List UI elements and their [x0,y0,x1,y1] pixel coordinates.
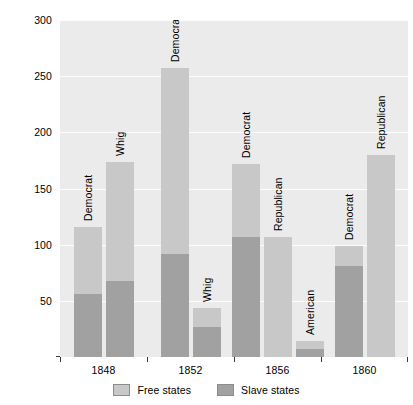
bar-label: Democrat [343,193,354,239]
bar-segment-free-states [193,308,221,327]
bar-1856-republican: Republican [264,237,292,357]
bar-label: Republican [375,95,386,149]
y-axis-tick-label: 300 [22,15,52,25]
bar-label: Democrat [240,111,251,157]
bar-label: Whig [201,277,212,301]
x-axis-tick-label: 1860 [335,364,395,376]
x-axis-tick-mark [234,357,235,362]
plot-area: DemocratWhigDemocratWhigDemocratRepublic… [60,20,408,357]
gridline [60,132,408,133]
x-axis-tick-mark [147,357,148,362]
x-axis-tick-label: 1856 [248,364,308,376]
bar-segment-slave-states [193,327,221,357]
y-axis-tick-label: 50 [22,296,52,306]
bar-segment-free-states [106,162,134,281]
gridline [60,20,408,21]
bar-segment-free-states [74,227,102,294]
gridline [60,76,408,77]
bar-segment-slave-states [232,237,260,357]
x-axis-tick-mark [407,357,408,362]
bar-label: Democrat [169,20,180,62]
bar-1852-democrat: Democrat [161,68,189,357]
bar-segment-slave-states [74,294,102,357]
legend-label-slave-states: Slave states [241,384,299,396]
bar-segment-free-states [161,68,189,253]
legend: Free states Slave states [0,381,413,399]
bar-segment-free-states [296,341,324,349]
bar-1856-american: American [296,341,324,357]
bar-segment-free-states [335,246,363,266]
bar-1852-whig: Whig [193,308,221,357]
legend-label-free-states: Free states [137,384,191,396]
bar-segment-free-states [232,164,260,237]
x-axis-tick-mark [321,357,322,362]
bar-segment-slave-states [161,254,189,357]
bar-segment-free-states [264,237,292,357]
bar-label: Whig [114,131,125,155]
bar-segment-slave-states [106,281,134,357]
legend-swatch-slave-states [217,384,234,396]
bar-chart: Party members in House of Representative… [0,0,413,405]
bar-segment-slave-states [296,349,324,357]
bar-segment-slave-states [335,266,363,357]
y-axis-tick-label: 100 [22,240,52,250]
bar-1848-democrat: Democrat [74,227,102,357]
legend-item-slave-states: Slave states [217,384,299,396]
bar-label: Republican [272,177,283,231]
y-axis-tick-label: 150 [22,184,52,194]
legend-swatch-free-states [113,384,130,396]
y-axis-title: Party members in House of Representative… [0,0,16,52]
bar-segment-free-states [367,155,395,357]
bar-1860-republican: Republican [367,155,395,357]
bar-1856-democrat: Democrat [232,164,260,357]
bar-label: Democrat [82,174,93,220]
x-axis-tick-label: 1848 [74,364,134,376]
y-axis-tick-label: 250 [22,71,52,81]
y-axis-tick-label: 200 [22,127,52,137]
bar-1860-democrat: Democrat [335,246,363,357]
x-axis-tick-mark [60,357,61,362]
x-axis-tick-label: 1852 [161,364,221,376]
bar-label: American [304,290,315,335]
legend-item-free-states: Free states [113,384,191,396]
bar-1848-whig: Whig [106,162,134,357]
